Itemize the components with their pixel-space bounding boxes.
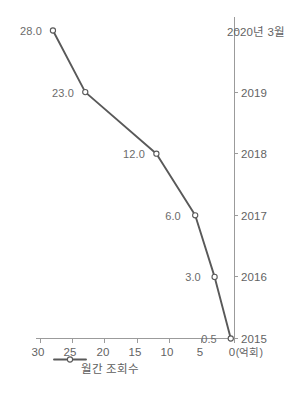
value-axis-tick-5: 5 bbox=[191, 345, 209, 357]
value-axis-tick-15: 15 bbox=[126, 345, 144, 357]
value-axis-tick-0: 0 bbox=[223, 345, 241, 357]
category-axis-tick-5: 2019 bbox=[224, 86, 248, 98]
category-axis-tick-4: 2018 bbox=[224, 147, 248, 159]
data-label-2019: 23.0 bbox=[47, 86, 79, 98]
value-axis-tick-20: 20 bbox=[94, 345, 112, 357]
data-label-2016: 3.0 bbox=[177, 270, 209, 282]
data-label-2017: 6.0 bbox=[157, 209, 189, 221]
data-label-2018: 12.0 bbox=[118, 147, 150, 159]
value-axis-tick-10: 10 bbox=[158, 345, 176, 357]
line-chart-plot-area: (억회) 051015202530 2015201620172018201920… bbox=[36, 0, 248, 419]
value-axis-tick-30: 30 bbox=[29, 345, 47, 357]
legend-entry-label: 월간 조회수 bbox=[75, 359, 145, 375]
category-axis-tick-2: 2016 bbox=[224, 270, 248, 282]
category-axis-tick-6: 2020년 3월 bbox=[226, 22, 248, 38]
category-axis-tick-1: 2015 bbox=[224, 332, 248, 344]
data-label-2015: 0.5 bbox=[193, 332, 225, 344]
data-label-2020년 3월: 28.0 bbox=[15, 24, 47, 36]
chart-figure: (억회) 051015202530 2015201620172018201920… bbox=[36, 0, 248, 419]
category-axis-tick-3: 2017 bbox=[224, 209, 248, 221]
